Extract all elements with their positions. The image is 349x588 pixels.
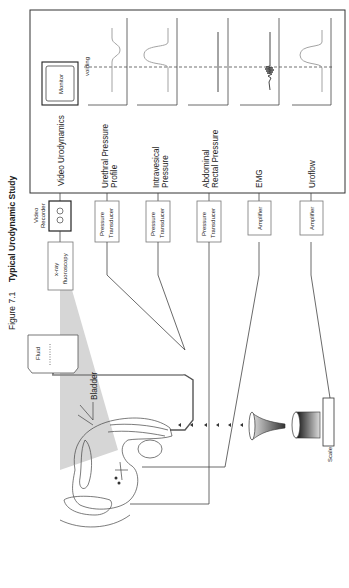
label-abdominal-1: Abdominal (202, 149, 211, 188)
figure-title-text: Typical Urodynamic Study (7, 176, 17, 282)
amplifier-1-label: Amplifier (257, 207, 263, 230)
fluid-label: Fluid (35, 347, 41, 360)
trace-uroflow (300, 30, 322, 92)
xray-label-1: x-ray (53, 263, 59, 276)
trace-axes (88, 18, 331, 105)
amplifier-uroflow: Amplifier (300, 201, 323, 235)
video-recorder-label-1: Video (33, 207, 39, 223)
trace-intravesical-pressure (144, 28, 168, 92)
label-urethral-pressure-2: Profile (110, 164, 119, 188)
transducer-3-label-1: Pressure (201, 211, 207, 236)
figure-number: Figure 7.1 (7, 291, 17, 330)
label-uroflow: Uroflow (308, 160, 317, 188)
label-urethral-pressure-1: Urethral Pressure (101, 123, 110, 188)
label-emg: EMG (255, 169, 264, 188)
monitor-label: Monitor (58, 74, 64, 94)
transducer-2-label-2: Transducer (159, 208, 165, 238)
video-recorder: Video Recorder (33, 201, 71, 242)
transducer-1-label-1: Pressure (99, 211, 105, 236)
transducer-2-label-1: Pressure (150, 211, 156, 236)
amplifier-emg: Amplifier (248, 201, 271, 235)
pressure-transducer-2: Pressure Transducer (146, 201, 170, 242)
connector-stubs (60, 193, 311, 201)
amplifier-2-label: Amplifier (309, 207, 315, 230)
figure-title: Figure 7.1 Typical Urodynamic Study (7, 176, 17, 330)
collection-cylinder (292, 412, 320, 438)
monitor: Monitor (42, 62, 78, 105)
transducer-3-label-2: Transducer (210, 208, 216, 238)
xray-beam (60, 290, 118, 470)
trace-urethral-pressure (112, 28, 120, 92)
fluid-bag: Fluid (28, 335, 78, 373)
voiding-label: voiding (84, 57, 90, 76)
trace-emg (265, 32, 274, 90)
scale-label: Scale (327, 446, 333, 462)
urodynamic-study-figure: Figure 7.1 Typical Urodynamic Study Moni… (0, 0, 349, 588)
funnel (249, 412, 285, 440)
patient-wires (107, 242, 330, 504)
pressure-transducer-1: Pressure Transducer (95, 201, 119, 242)
video-recorder-label-2: Recorder (40, 203, 46, 228)
label-intravesical-2: Pressure (161, 155, 170, 188)
bladder-label: Bladder (90, 372, 99, 400)
label-intravesical-1: Intravesical (152, 146, 161, 188)
channel-labels: Video Urodynamics Urethral Pressure Prof… (57, 115, 317, 188)
xray-label-2: fluoroscopy (62, 253, 68, 284)
scale: Scale (323, 398, 334, 462)
pressure-transducer-3: Pressure Transducer (197, 201, 221, 242)
xray-fluoroscopy: x-ray fluoroscopy (48, 242, 73, 290)
transducer-1-label-2: Transducer (108, 208, 114, 238)
label-abdominal-2: Rectal Pressure (211, 129, 220, 188)
label-video-urodynamics: Video Urodynamics (57, 115, 66, 186)
